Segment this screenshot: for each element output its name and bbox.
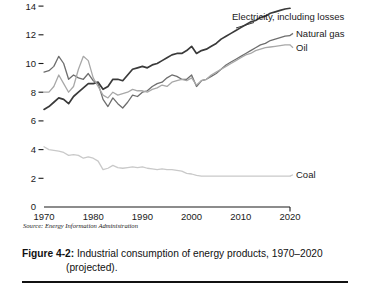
- y-axis-tick-label: 10: [25, 58, 36, 69]
- y-axis-tick-label: 4: [31, 144, 36, 155]
- x-axis-tick-label: 1970: [33, 211, 54, 222]
- y-axis-tick-label: 2: [31, 173, 36, 184]
- series-label-coal: Coal: [296, 169, 316, 180]
- x-axis-tick-label: 1980: [83, 211, 104, 222]
- y-axis: 02468101214: [25, 1, 43, 213]
- y-axis-tick-label: 6: [31, 115, 36, 126]
- caption-divider: [22, 281, 348, 283]
- x-axis-tick-label: 1990: [132, 211, 153, 222]
- series-label-oil: Oil: [296, 42, 308, 53]
- series-lines: [44, 8, 290, 176]
- series-line-natural-gas: [44, 36, 290, 108]
- x-axis-tick-label: 2020: [279, 211, 300, 222]
- y-axis-tick-label: 8: [31, 87, 36, 98]
- series-label-electricity-including-losses: Electricity, including losses: [232, 11, 345, 22]
- y-axis-tick-label: 14: [25, 1, 36, 12]
- x-axis-tick-label: 2010: [230, 211, 251, 222]
- caption-figure-text: Industrial consumption of energy product…: [74, 248, 323, 259]
- caption-line-1: Figure 4-2: Industrial consumption of en…: [22, 247, 348, 261]
- series-label-natural-gas: Natural gas: [296, 28, 345, 39]
- x-axis-tick-label: 2000: [181, 211, 202, 222]
- series-line-electricity-including-losses: [44, 8, 290, 109]
- leader-line-coal: [290, 175, 293, 176]
- leader-line-oil: [290, 45, 293, 48]
- leader-line-natural-gas: [290, 33, 293, 35]
- caption-line-2: (projected).: [22, 261, 348, 275]
- x-axis: 197019801990200020102020: [33, 207, 300, 222]
- y-axis-tick-label: 12: [25, 29, 36, 40]
- leader-line-electricity-including-losses: [236, 23, 254, 29]
- line-chart: 02468101214 197019801990200020102020 Ele…: [0, 0, 370, 232]
- chart-plot-area: 02468101214 197019801990200020102020 Ele…: [0, 0, 370, 232]
- figure-caption: Figure 4-2: Industrial consumption of en…: [22, 247, 348, 274]
- caption-figure-number: Figure 4-2:: [22, 248, 74, 259]
- series-line-coal: [44, 147, 290, 176]
- figure-container: 02468101214 197019801990200020102020 Ele…: [0, 0, 370, 287]
- source-note: Source: Energy Information Administratio…: [23, 222, 139, 229]
